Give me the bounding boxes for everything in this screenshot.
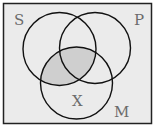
- label-s: S: [14, 11, 24, 29]
- label-m: M: [114, 103, 129, 121]
- venn-diagram: S P X M: [0, 0, 155, 128]
- label-x: X: [72, 92, 83, 110]
- label-p: P: [134, 11, 144, 29]
